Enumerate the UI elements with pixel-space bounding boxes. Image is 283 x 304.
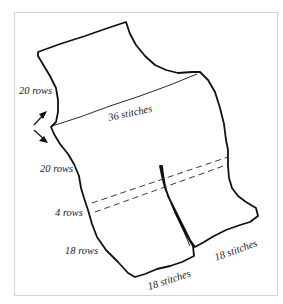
band-line-upper (92, 157, 228, 203)
knitting-schematic: 20 rows 36 stitches 20 rows 4 rows 18 ro… (0, 0, 283, 304)
label-rows-band: 4 rows (55, 207, 83, 218)
label-rows-upper: 20 rows (19, 85, 52, 96)
label-right-leg-stitches: 18 stitches (213, 237, 259, 263)
label-rows-leg: 18 rows (65, 245, 98, 256)
direction-arrows-icon (34, 111, 48, 143)
garment-outline (38, 22, 258, 277)
label-36-stitches: 36 stitches (106, 103, 153, 123)
label-rows-middle: 20 rows (40, 163, 73, 174)
